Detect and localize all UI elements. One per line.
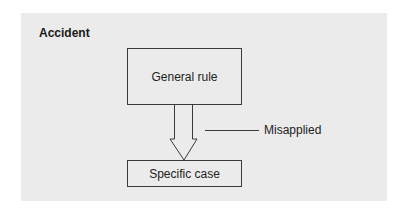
misapplied-annotation: Misapplied bbox=[264, 123, 321, 137]
specific-case-box: Specific case bbox=[127, 160, 242, 187]
hollow-down-arrow-icon bbox=[170, 105, 197, 160]
specific-case-label: Specific case bbox=[149, 167, 220, 181]
